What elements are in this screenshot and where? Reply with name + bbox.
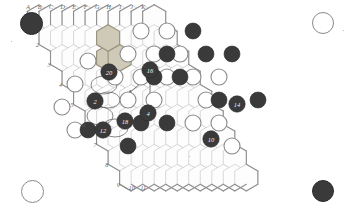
numbered-stone[interactable]: 10 [203, 131, 219, 147]
bottom-left-marker [21, 180, 44, 203]
speck-dot [11, 41, 12, 42]
stone[interactable] [159, 46, 175, 62]
top-left-marker [20, 12, 43, 35]
black-stone-disc [120, 138, 136, 154]
stone[interactable] [211, 115, 227, 131]
stone-number-label: 18 [122, 118, 129, 125]
stone[interactable] [198, 46, 214, 62]
white-stone-disc [211, 69, 227, 85]
edge-label-number: 6 [82, 122, 85, 128]
stone-number-label: 10 [208, 136, 215, 143]
edge-label-number: 8 [105, 162, 108, 168]
edge-label-letter: G [95, 4, 100, 10]
hex-board-diagram: 20162418121410 ABCDEFGHIJK1234567891011 [0, 0, 351, 214]
edge-label-letter: A [25, 4, 30, 10]
edge-label-number: 3 [47, 62, 51, 68]
speck-dot [343, 30, 344, 31]
white-stone-disc [159, 23, 175, 39]
edge-label-letter: D [59, 4, 65, 10]
numbered-stone[interactable]: 4 [140, 105, 156, 121]
edge-label-letter: H [105, 4, 111, 10]
stone[interactable] [159, 23, 175, 39]
edge-label-number: 10 [129, 185, 135, 191]
edge-label-letter: F [83, 4, 88, 10]
numbered-stone[interactable]: 14 [229, 96, 245, 112]
numbered-stone[interactable]: 12 [95, 122, 111, 138]
stone[interactable] [172, 69, 188, 85]
numbered-stone[interactable]: 16 [142, 62, 158, 78]
edge-label-number: 4 [59, 82, 62, 88]
white-stone-disc [133, 23, 149, 39]
numbered-stone[interactable]: 2 [87, 93, 103, 109]
bottom-right-marker [312, 180, 334, 202]
speck-dot [189, 156, 190, 157]
highlighted-hex-cell[interactable] [97, 25, 120, 52]
stone[interactable] [120, 138, 136, 154]
black-stone-disc [172, 69, 188, 85]
hex-grid-canvas: 20162418121410 ABCDEFGHIJK1234567891011 [0, 0, 351, 214]
stone-number-label: 14 [234, 101, 241, 108]
stone[interactable] [80, 53, 96, 69]
black-stone-disc [159, 46, 175, 62]
black-stone-disc [250, 92, 266, 108]
black-stone-disc [159, 115, 175, 131]
edge-label-letter: B [38, 4, 42, 10]
stone[interactable] [224, 138, 240, 154]
stone[interactable] [120, 92, 136, 108]
white-stone-disc [211, 115, 227, 131]
stone[interactable] [211, 92, 227, 108]
stone[interactable] [159, 115, 175, 131]
top-right-marker [312, 12, 334, 34]
edge-label-number: 11 [140, 185, 146, 191]
numbered-stone[interactable]: 20 [101, 64, 117, 80]
stone-number-label: 12 [100, 127, 107, 134]
edge-label-number: 2 [36, 42, 39, 48]
stone[interactable] [185, 23, 201, 39]
white-stone-disc [54, 99, 70, 115]
edge-label-letter: E [71, 4, 76, 10]
stone[interactable] [211, 69, 227, 85]
stone[interactable] [67, 76, 83, 92]
black-stone-disc [211, 92, 227, 108]
black-stone-disc [224, 46, 240, 62]
edge-label-letter: J [130, 4, 133, 10]
stone[interactable] [185, 115, 201, 131]
stone[interactable] [133, 23, 149, 39]
white-stone-disc [80, 53, 96, 69]
stone[interactable] [224, 46, 240, 62]
numbered-stone[interactable]: 18 [117, 113, 133, 129]
black-stone-disc [198, 46, 214, 62]
white-stone-disc [120, 46, 136, 62]
black-stone-disc [185, 23, 201, 39]
edge-label-number: 9 [117, 182, 120, 188]
white-stone-disc [120, 92, 136, 108]
stone[interactable] [54, 99, 70, 115]
white-stone-disc [224, 138, 240, 154]
white-stone-disc [185, 115, 201, 131]
stone-number-label: 20 [106, 69, 113, 76]
stone[interactable] [120, 46, 136, 62]
white-stone-disc [67, 76, 83, 92]
edge-label-number: 5 [71, 102, 74, 108]
stone[interactable] [250, 92, 266, 108]
stone-number-label: 16 [147, 67, 154, 74]
